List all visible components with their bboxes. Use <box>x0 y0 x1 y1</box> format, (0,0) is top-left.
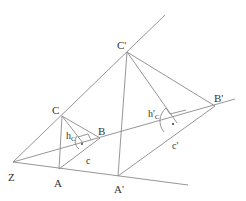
label-a-prime: A' <box>114 183 124 195</box>
side-a-prime-b-prime <box>118 106 215 176</box>
label-c-prime-side: c' <box>172 140 178 151</box>
label-z: Z <box>8 171 15 183</box>
right-angle-dot-small <box>81 143 83 145</box>
label-b-prime: B' <box>214 92 223 104</box>
dilation-diagram: Z A B C A' B' C' hC c h'C c' <box>0 0 246 201</box>
label-b: B <box>98 125 105 137</box>
ray-z-through-a <box>13 162 188 185</box>
label-a: A <box>54 177 62 189</box>
ray-z-through-c <box>13 15 165 162</box>
label-c-side: c <box>86 155 91 166</box>
label-c: C <box>52 104 59 116</box>
right-angle-dot-large <box>172 123 174 125</box>
side-ab <box>59 138 100 169</box>
ray-z-through-b <box>13 99 235 162</box>
diagram-svg: Z A B C A' B' C' hC c h'C c' <box>0 0 246 201</box>
label-hc-prime: h'C <box>148 108 160 121</box>
side-c-prime-a-prime <box>118 52 127 176</box>
side-c-prime-b-prime <box>127 52 215 106</box>
side-ca <box>59 116 62 169</box>
label-c-prime: C' <box>117 39 126 51</box>
